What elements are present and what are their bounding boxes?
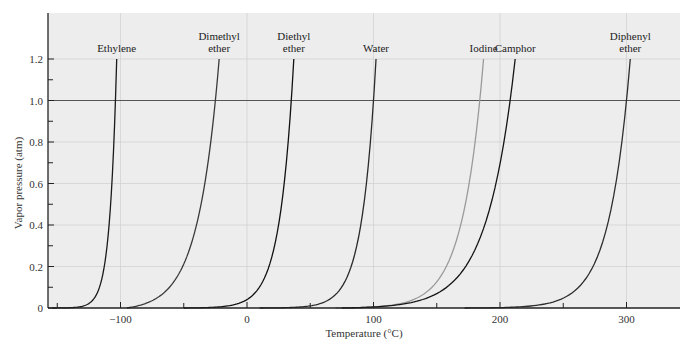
y-tick-label: 1.2 — [29, 53, 43, 65]
curve-label-text: Dimethyl — [198, 30, 240, 42]
curve-label-text: Diethyl — [277, 30, 310, 42]
x-tick-label: 0 — [244, 313, 250, 325]
y-axis-title: Vapor pressure (atm) — [12, 137, 25, 230]
y-tick-label: 0.4 — [29, 219, 43, 231]
label-ethylene: Ethylene — [97, 42, 136, 54]
y-tick-label: 0 — [38, 302, 44, 314]
label-iodine: Iodine — [470, 42, 498, 54]
curve-label-text: Diphenyl — [610, 30, 651, 42]
plot-background — [48, 13, 680, 308]
curve-label-text: Water — [363, 42, 389, 54]
y-tick-label: 0.2 — [29, 261, 43, 273]
x-tick-label: 100 — [365, 313, 382, 325]
label-water: Water — [363, 42, 389, 54]
x-tick-label: 200 — [492, 313, 509, 325]
x-tick-label: 300 — [618, 313, 635, 325]
curve-label-text: Camphor — [495, 42, 536, 54]
curve-label-text: ether — [283, 42, 305, 54]
x-tick-label: −100 — [109, 313, 132, 325]
x-axis-title: Temperature (°C) — [325, 327, 403, 340]
vapor-pressure-chart: −1000100200300 00.20.40.60.81.01.2 Ethyl… — [0, 0, 692, 351]
y-tick-label: 0.6 — [29, 178, 43, 190]
curve-label-text: ether — [208, 42, 230, 54]
curve-label-text: Iodine — [470, 42, 498, 54]
y-tick-label: 0.8 — [29, 136, 43, 148]
curve-label-text: Ethylene — [97, 42, 136, 54]
curve-label-text: ether — [619, 42, 641, 54]
label-camphor: Camphor — [495, 42, 536, 54]
y-tick-label: 1.0 — [29, 95, 43, 107]
